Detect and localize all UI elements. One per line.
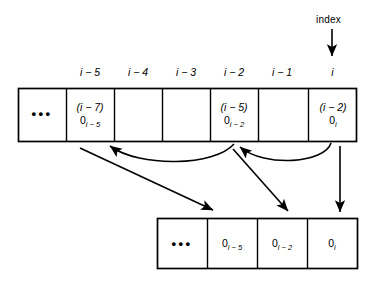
top-cell-4-line1: (i − 5): [210, 101, 258, 114]
back-pointer-arrow-i-to-i2: [240, 143, 331, 161]
lower-cell-0-ellipsis: •••: [157, 237, 207, 250]
top-cell-4-content: (i − 5) 0i − 2: [210, 101, 258, 131]
column-header-i: i: [308, 66, 357, 78]
top-cell-1-sub: i − 5: [86, 120, 100, 129]
lower-cell-1-sub: i − 5: [228, 243, 242, 252]
column-header-i-minus-3: i − 3: [162, 66, 210, 78]
lower-cell-2-sub: i − 2: [278, 243, 292, 252]
back-pointer-arrow-i2-to-i5: [110, 144, 234, 162]
top-cell-0-ellipsis: •••: [18, 107, 66, 120]
lower-cell-2-content: 0i − 2: [257, 237, 307, 252]
column-header-i-minus-2: i − 2: [210, 66, 258, 78]
column-header-i-minus-4: i − 4: [114, 66, 162, 78]
top-cell-1-content: (i − 7) 0i − 5: [66, 101, 114, 131]
diagram-canvas: index i − 5 i − 4 i − 3 i − 2 i − 1 i ••…: [0, 0, 380, 281]
top-cell-4-sub: i − 2: [230, 120, 244, 129]
top-cell-6-sub: i: [335, 120, 337, 129]
copy-arrow-i5: [80, 148, 213, 210]
lower-cell-1-content: 0i − 5: [207, 237, 257, 252]
top-cell-4-line2: 0i − 2: [210, 114, 258, 131]
index-pointer-label: index: [316, 14, 341, 25]
top-cell-6-line1: (i − 2): [309, 101, 357, 114]
column-header-i-minus-5: i − 5: [66, 66, 114, 78]
lower-cell-3-sub: i: [334, 243, 336, 252]
lower-cell-3-content: 0i: [307, 237, 357, 252]
top-cell-1-line2: 0i − 5: [66, 114, 114, 131]
column-header-i-minus-1: i − 1: [258, 66, 306, 78]
top-cell-1-line1: (i − 7): [66, 101, 114, 114]
copy-arrow-i2: [233, 149, 288, 211]
top-cell-6-content: (i − 2) 0i: [309, 101, 357, 131]
top-cell-6-line2: 0i: [309, 114, 357, 131]
